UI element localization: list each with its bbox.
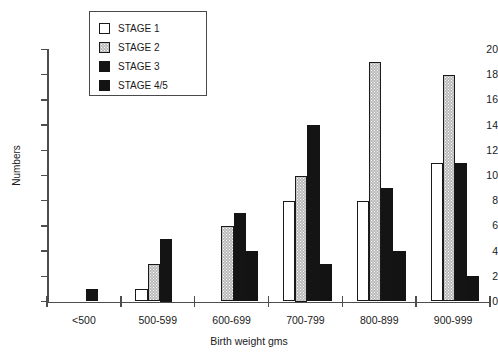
bar xyxy=(393,251,405,301)
y-axis-tick-label: 18 xyxy=(464,69,498,80)
y-axis-title: Numbers xyxy=(11,131,22,201)
legend-swatch-icon xyxy=(99,80,110,91)
bar xyxy=(221,226,233,302)
y-axis-tick xyxy=(41,225,49,226)
bar xyxy=(320,264,332,302)
bar-chart: STAGE 1STAGE 2STAGE 3STAGE 4/5 Numbers B… xyxy=(0,0,498,356)
bar xyxy=(381,188,393,301)
bar xyxy=(283,201,295,302)
legend-item[interactable]: STAGE 2 xyxy=(99,38,206,57)
bar xyxy=(307,125,319,301)
x-axis-tick-label: <500 xyxy=(47,315,121,326)
bar xyxy=(246,251,258,301)
legend-item-label: STAGE 3 xyxy=(118,61,160,72)
bar xyxy=(160,239,172,302)
bar xyxy=(357,201,369,302)
legend-swatch-icon xyxy=(99,23,110,34)
y-axis-tick xyxy=(41,150,49,151)
bar xyxy=(443,75,455,302)
x-axis-tick-label: 500-599 xyxy=(121,315,195,326)
bar xyxy=(86,289,98,302)
legend-swatch-icon xyxy=(99,61,110,72)
bar xyxy=(148,264,160,302)
legend-item[interactable]: STAGE 1 xyxy=(99,19,206,38)
bar xyxy=(135,289,147,302)
y-axis-tick-label: 6 xyxy=(464,220,498,231)
x-axis-tick xyxy=(120,296,121,307)
y-axis-tick xyxy=(41,49,49,50)
legend-item-label: STAGE 1 xyxy=(118,23,160,34)
x-axis-tick-label: 700-799 xyxy=(269,315,343,326)
y-axis-tick xyxy=(41,301,49,302)
chart-legend: STAGE 1STAGE 2STAGE 3STAGE 4/5 xyxy=(89,11,207,96)
x-axis-tick-label: 800-899 xyxy=(342,315,416,326)
x-axis-tick xyxy=(489,296,490,307)
y-axis-tick-label: 12 xyxy=(464,145,498,156)
y-axis-tick-label: 4 xyxy=(464,246,498,257)
x-axis-title: Birth weight gms xyxy=(0,335,498,347)
x-axis-tick-label: 900-999 xyxy=(416,315,490,326)
x-axis-tick xyxy=(268,296,269,307)
y-axis-tick-label: 8 xyxy=(464,195,498,206)
y-axis-tick-label: 14 xyxy=(464,120,498,131)
y-axis-tick xyxy=(41,99,49,100)
y-axis-tick-label: 10 xyxy=(464,170,498,181)
y-axis-tick xyxy=(41,175,49,176)
y-axis-tick xyxy=(41,276,49,277)
bar xyxy=(369,62,381,301)
bar xyxy=(431,163,443,302)
y-axis-tick-label: 20 xyxy=(464,44,498,55)
x-axis-tick xyxy=(415,296,416,307)
x-axis-tick xyxy=(46,296,47,307)
legend-item[interactable]: STAGE 4/5 xyxy=(99,76,206,95)
y-axis-tick xyxy=(41,74,49,75)
bar xyxy=(295,176,307,302)
legend-swatch-icon xyxy=(99,42,110,53)
x-axis-tick xyxy=(194,296,195,307)
y-axis-tick xyxy=(41,250,49,251)
legend-item-label: STAGE 4/5 xyxy=(118,80,168,91)
y-axis-tick xyxy=(41,200,49,201)
legend-item-label: STAGE 2 xyxy=(118,42,160,53)
bar xyxy=(455,163,467,302)
bar xyxy=(234,213,246,301)
x-axis-tick-label: 600-699 xyxy=(195,315,269,326)
bar xyxy=(467,276,479,301)
y-axis-tick-label: 16 xyxy=(464,94,498,105)
y-axis-tick xyxy=(41,124,49,125)
x-axis-tick xyxy=(342,296,343,307)
legend-item[interactable]: STAGE 3 xyxy=(99,57,206,76)
